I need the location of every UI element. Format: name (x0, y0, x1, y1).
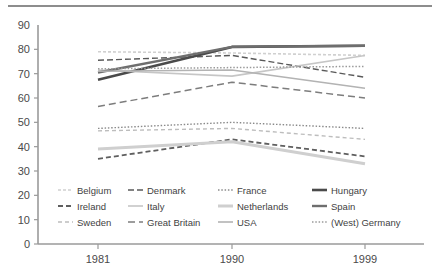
y-tick-label: 10 (18, 214, 30, 226)
y-tick-label: 70 (18, 68, 30, 80)
series-line (98, 66, 365, 68)
y-axis: 0102030405060708090 (18, 19, 38, 250)
y-tick-label: 60 (18, 92, 30, 104)
legend-label-denmark[interactable]: Denmark (147, 185, 186, 196)
x-axis: 198119901999 (38, 244, 424, 265)
series-line (98, 52, 365, 56)
chart-legend: BelgiumDenmarkFranceHungaryIrelandItalyN… (52, 181, 404, 233)
legend-label-west-germany[interactable]: (West) Germany (331, 217, 401, 228)
chart-figure: 0102030405060708090 198119901999 Belgium… (0, 0, 438, 273)
legend-label-usa[interactable]: USA (237, 217, 257, 228)
legend-label-hungary[interactable]: Hungary (331, 185, 367, 196)
legend-label-belgium[interactable]: Belgium (77, 185, 111, 196)
series-line (98, 122, 365, 128)
x-tick-label: 1999 (353, 253, 377, 265)
legend-label-netherlands[interactable]: Netherlands (237, 201, 288, 212)
x-tick-label: 1981 (86, 253, 110, 265)
legend-label-sweden[interactable]: Sweden (77, 217, 111, 228)
y-tick-label: 0 (24, 238, 30, 250)
legend-label-spain[interactable]: Spain (331, 201, 355, 212)
y-tick-label: 80 (18, 43, 30, 55)
y-tick-label: 40 (18, 141, 30, 153)
line-chart: 0102030405060708090 198119901999 Belgium… (0, 0, 438, 273)
y-tick-label: 50 (18, 116, 30, 128)
legend-label-france[interactable]: France (237, 185, 267, 196)
legend-label-great-britain[interactable]: Great Britain (147, 217, 200, 228)
series-line (98, 70, 365, 88)
series-line (98, 55, 365, 77)
series-lines (98, 46, 365, 164)
y-tick-label: 20 (18, 189, 30, 201)
y-tick-label: 90 (18, 19, 30, 31)
x-tick-label: 1990 (220, 253, 244, 265)
series-line (98, 82, 365, 106)
legend-label-italy[interactable]: Italy (147, 201, 165, 212)
series-line (98, 46, 365, 80)
y-tick-label: 30 (18, 165, 30, 177)
legend-label-ireland[interactable]: Ireland (77, 201, 106, 212)
series-line (98, 128, 365, 139)
